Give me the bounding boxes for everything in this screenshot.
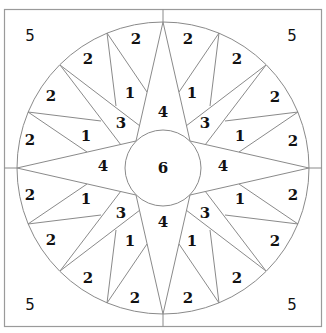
small-point-label: 1 <box>125 86 135 101</box>
background-wedge-label: 2 <box>25 133 35 148</box>
small-point-label: 1 <box>81 129 91 144</box>
long-point-label: 4 <box>158 105 168 120</box>
center-piece-label: 6 <box>158 161 168 176</box>
small-point-label: 1 <box>187 234 197 249</box>
small-point-label: 1 <box>125 234 135 249</box>
background-wedge-label: 2 <box>288 134 298 149</box>
corner-piece-label: 5 <box>287 29 297 44</box>
background-wedge-label: 2 <box>232 52 242 67</box>
background-wedge-label: 2 <box>232 271 242 286</box>
long-point-label: 4 <box>98 159 108 174</box>
corner-piece-label: 5 <box>25 298 35 313</box>
background-wedge-label: 2 <box>183 32 193 47</box>
corner-piece-label: 5 <box>287 298 297 313</box>
background-wedge-label: 2 <box>25 188 35 203</box>
background-wedge-label: 2 <box>183 291 193 306</box>
diagonal-point-label: 3 <box>200 116 210 131</box>
diagonal-point-label: 3 <box>200 206 210 221</box>
small-point-label: 1 <box>235 129 245 144</box>
background-wedge-label: 2 <box>270 234 280 249</box>
background-wedge-label: 2 <box>288 188 298 203</box>
background-wedge-label: 2 <box>46 89 56 104</box>
background-wedge-label: 2 <box>270 90 280 105</box>
diagonal-point-label: 3 <box>116 206 126 221</box>
small-point-label: 1 <box>235 192 245 207</box>
long-point-label: 4 <box>158 215 168 230</box>
small-point-label: 1 <box>81 192 91 207</box>
background-wedge-label: 2 <box>83 271 93 286</box>
small-point-label: 1 <box>187 86 197 101</box>
long-point-label: 4 <box>218 159 228 174</box>
background-wedge-label: 2 <box>131 32 141 47</box>
compass-diagram: 5 5 5 5 6 4 4 4 4 3 3 3 3 1 1 1 1 1 1 1 … <box>0 0 326 333</box>
background-wedge-label: 2 <box>130 291 140 306</box>
background-wedge-label: 2 <box>46 233 56 248</box>
background-wedge-label: 2 <box>83 52 93 67</box>
diagonal-point-label: 3 <box>116 116 126 131</box>
corner-piece-label: 5 <box>25 29 35 44</box>
